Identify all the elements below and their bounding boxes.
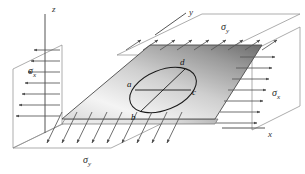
sigma-x-left-label: σx xyxy=(28,66,36,79)
stress-diagram-figure: z y x σy σx σx σy a b c d xyxy=(0,0,305,174)
sigma-subscript: x xyxy=(277,93,280,101)
plate-thickness xyxy=(62,119,218,124)
sigma-x-right-label: σx xyxy=(272,88,280,101)
point-a-label: a xyxy=(127,80,132,89)
sigma-y-top-label: σy xyxy=(221,22,229,35)
sigma-y-bottom-label: σy xyxy=(83,155,91,168)
sigma-subscript: y xyxy=(226,27,229,35)
point-c-label: c xyxy=(192,88,196,97)
sigma-subscript: x xyxy=(33,71,36,79)
point-d-label: d xyxy=(180,58,185,67)
point-b-label: b xyxy=(131,113,136,122)
band-left-sigma-x xyxy=(16,50,60,116)
stressed-plate xyxy=(62,45,262,119)
y-axis-label: y xyxy=(189,8,193,17)
diagram-canvas xyxy=(0,0,305,174)
x-axis-label: x xyxy=(268,130,272,139)
sigma-subscript: y xyxy=(88,160,91,168)
z-axis-label: z xyxy=(52,5,56,14)
